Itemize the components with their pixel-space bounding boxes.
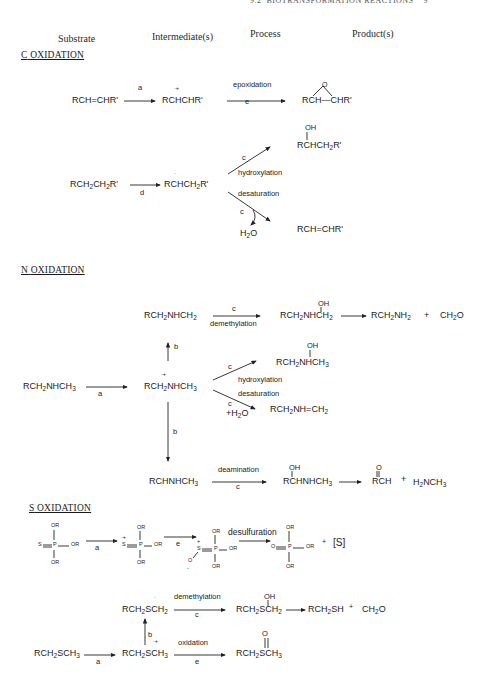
arrow-n-desaturation (213, 390, 255, 409)
reaction-arrows-layer (0, 0, 477, 674)
epoxide-bond (313, 86, 332, 96)
arrow-c-water-curve (251, 210, 255, 225)
arrow-c-desaturation (228, 192, 270, 221)
arrow-n-hydroxylation (213, 361, 256, 380)
arrow-c-hydroxylation (228, 147, 270, 174)
